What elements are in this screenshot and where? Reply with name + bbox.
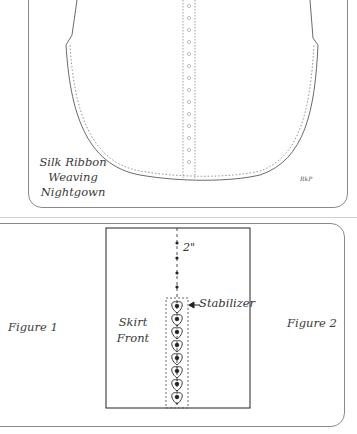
figure-2-label: Figure 2 bbox=[287, 316, 337, 330]
dimension-label: 2" bbox=[183, 241, 195, 254]
skirt-front-label: Skirt Front bbox=[113, 314, 153, 346]
nightgown-drawing bbox=[66, 0, 318, 180]
figure-1-label: Figure 1 bbox=[8, 320, 58, 334]
illustration-title: Silk Ribbon Weaving Nightgown bbox=[38, 155, 108, 200]
title-line: Weaving bbox=[38, 170, 108, 185]
stabilizer-label: Stabilizer bbox=[199, 296, 255, 310]
title-line: Silk Ribbon bbox=[38, 155, 108, 170]
title-line: Nightgown bbox=[38, 185, 108, 200]
label-line: Skirt bbox=[113, 314, 153, 330]
artist-signature: RkP bbox=[300, 175, 312, 182]
label-line: Front bbox=[113, 330, 153, 346]
technical-illustrations bbox=[0, 0, 357, 434]
